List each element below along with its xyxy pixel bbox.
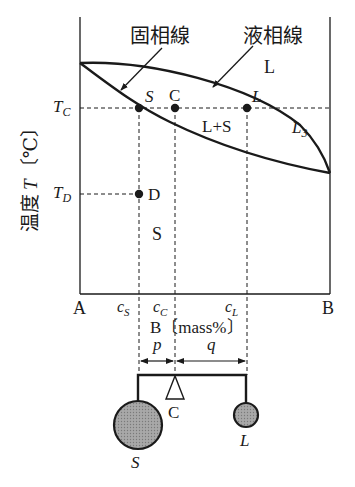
liquidus-arrow [213, 46, 253, 87]
point-d-label: D [148, 185, 160, 204]
y-axis-label: 温度T〔℃〕 [20, 118, 41, 232]
cs-label: cS [117, 298, 130, 318]
fulcrum-triangle [166, 376, 184, 399]
lever-beam [138, 375, 246, 404]
region-liquid-label: L [264, 57, 275, 77]
x-left-label: A [73, 298, 86, 318]
phase-diagram: 固相線 液相線 L L+S S L3 S C L D TC TD 温度T〔℃〕 … [0, 0, 355, 487]
liquid-mass-circle [234, 403, 258, 427]
point-d [135, 190, 143, 198]
point-c [171, 104, 179, 112]
p-label: p [152, 335, 162, 354]
x-unit-label: B〔mass%〕 [150, 318, 244, 337]
region-solid-label: S [152, 224, 162, 244]
td-label: TD [53, 183, 71, 205]
axes-frame [80, 17, 330, 294]
point-s-label: S [145, 87, 154, 106]
point-s [135, 104, 143, 112]
region-two-phase-label: L+S [202, 117, 231, 136]
liquidus-label: 液相線 [243, 25, 303, 47]
cc-label: cC [153, 298, 168, 318]
tc-label: TC [53, 97, 71, 119]
point-l [243, 104, 251, 112]
svg-text:温度T〔℃〕: 温度T〔℃〕 [20, 118, 41, 232]
fulcrum-label: C [168, 403, 179, 422]
point-l-label: L [251, 87, 261, 106]
solidus-label: 固相線 [130, 25, 190, 47]
q-label: q [207, 335, 216, 354]
solid-mass-label: S [131, 453, 140, 472]
solid-mass-circle [114, 401, 162, 449]
l3-label: L3 [291, 118, 307, 140]
x-right-label: B [322, 298, 334, 318]
cl-label: cL [225, 298, 238, 318]
point-c-label: C [169, 86, 180, 105]
liquid-mass-label: L [239, 431, 249, 450]
